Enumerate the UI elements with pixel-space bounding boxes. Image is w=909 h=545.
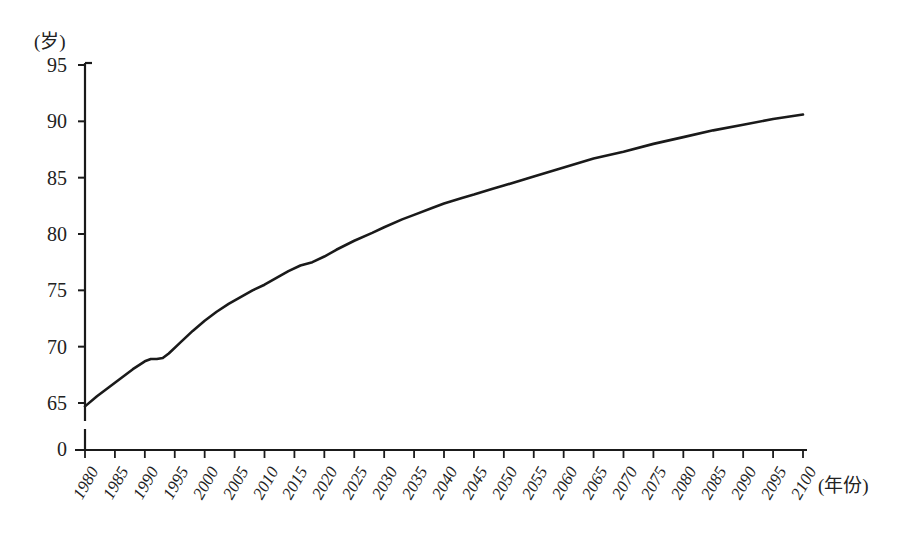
y-axis-ticks	[75, 65, 85, 450]
plot-area	[0, 0, 909, 545]
x-axis-ticks	[85, 450, 803, 458]
life-expectancy-chart: (岁) (年份) 657075808590950 198019851990199…	[0, 0, 909, 545]
data-series-line	[85, 115, 803, 407]
axis-lines	[75, 63, 807, 450]
